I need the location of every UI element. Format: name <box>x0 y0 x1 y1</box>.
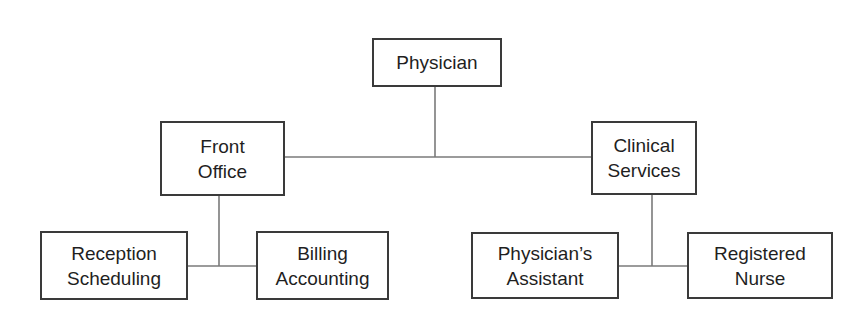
node-label: Services <box>608 158 681 183</box>
node-label: Front <box>200 134 244 159</box>
node-physicians-assistant: Physician’s Assistant <box>471 232 619 299</box>
node-label: Accounting <box>275 266 369 291</box>
node-label: Assistant <box>506 266 583 291</box>
node-label: Office <box>198 159 247 184</box>
node-front-office: Front Office <box>160 121 285 196</box>
node-label: Physician’s <box>498 241 593 266</box>
node-reception-scheduling: Reception Scheduling <box>40 231 188 300</box>
org-chart: Physician Front Office Clinical Services… <box>0 0 863 324</box>
node-label: Clinical <box>613 133 674 158</box>
node-label: Scheduling <box>67 266 161 291</box>
node-label: Physician <box>396 50 477 75</box>
node-label: Registered <box>714 241 806 266</box>
node-clinical-services: Clinical Services <box>591 121 697 195</box>
node-label: Reception <box>71 241 157 266</box>
node-billing-accounting: Billing Accounting <box>256 231 389 300</box>
node-physician: Physician <box>372 38 502 87</box>
node-label: Billing <box>297 241 348 266</box>
node-label: Nurse <box>735 266 786 291</box>
node-registered-nurse: Registered Nurse <box>687 232 833 299</box>
